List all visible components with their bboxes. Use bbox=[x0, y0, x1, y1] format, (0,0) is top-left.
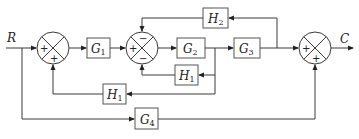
s2-sign-left: + bbox=[129, 43, 137, 54]
wire-h1-outer-to-s1 bbox=[53, 65, 103, 94]
block-h1-inner: H1 bbox=[175, 65, 198, 85]
summing-junction-3: + + bbox=[299, 32, 331, 64]
block-g2: G2 bbox=[177, 38, 205, 58]
block-g1: G1 bbox=[87, 38, 110, 58]
block-g3: G3 bbox=[234, 38, 260, 58]
wire-h1-inner-to-s2 bbox=[142, 65, 175, 75]
block-diagram: R + + G1 + − − G2 G3 + + bbox=[0, 0, 359, 139]
input-label-r: R bbox=[6, 31, 16, 45]
summing-junction-1: + + bbox=[37, 32, 69, 64]
s1-sign-bottom: + bbox=[50, 53, 58, 64]
s2-sign-top: − bbox=[139, 33, 147, 44]
wire-h2-to-s2 bbox=[142, 18, 203, 31]
block-h1-outer: H1 bbox=[103, 84, 126, 104]
s3-sign-bottom: + bbox=[312, 53, 320, 64]
block-g4: G4 bbox=[135, 108, 158, 129]
summing-junction-2: + − − bbox=[126, 32, 158, 64]
output-label-c: C bbox=[340, 32, 349, 46]
s1-sign-left: + bbox=[40, 43, 48, 54]
s2-sign-bottom: − bbox=[139, 53, 147, 64]
s3-sign-left: + bbox=[302, 43, 310, 54]
diagram-svg: R + + G1 + − − G2 G3 + + bbox=[0, 0, 359, 139]
block-h2: H2 bbox=[203, 8, 228, 28]
wire-g2out-to-h1-outer bbox=[127, 75, 215, 94]
